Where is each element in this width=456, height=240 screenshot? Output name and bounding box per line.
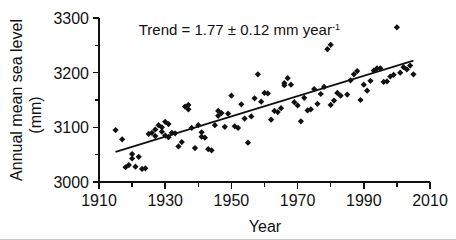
figure-container: 3000310032003300 19101930195019701990201… bbox=[0, 0, 456, 240]
y-tick-label: 3300 bbox=[53, 10, 89, 27]
data-point bbox=[136, 154, 142, 160]
x-tick-label: 1950 bbox=[214, 192, 250, 209]
data-point bbox=[258, 99, 264, 105]
scatter-points bbox=[112, 24, 416, 172]
data-point bbox=[132, 164, 138, 170]
data-point bbox=[179, 139, 185, 145]
data-point bbox=[318, 91, 324, 97]
data-point bbox=[331, 97, 337, 103]
trend-annotation: Trend = 1.77 ± 0.12 mm year-1 bbox=[139, 21, 340, 38]
trend-annotation-exponent: -1 bbox=[332, 22, 340, 32]
y-axis-tick-labels: 3000310032003300 bbox=[53, 10, 89, 191]
data-point bbox=[268, 117, 274, 123]
data-point bbox=[394, 24, 400, 30]
data-point bbox=[285, 75, 291, 81]
x-axis-ticks bbox=[99, 182, 430, 189]
data-point bbox=[255, 71, 261, 77]
y-axis-ticks bbox=[93, 18, 99, 182]
x-tick-label: 1970 bbox=[280, 192, 316, 209]
data-point bbox=[344, 91, 350, 97]
x-axis: 191019301950197019902010 bbox=[81, 182, 448, 209]
data-point bbox=[228, 93, 234, 99]
x-tick-label: 1930 bbox=[147, 192, 183, 209]
data-point bbox=[251, 95, 257, 101]
y-axis: 3000310032003300 bbox=[53, 10, 99, 191]
data-point bbox=[314, 101, 320, 107]
data-point bbox=[129, 151, 135, 157]
trend-line bbox=[116, 61, 414, 152]
data-point bbox=[119, 136, 125, 142]
data-point bbox=[248, 113, 254, 119]
y-axis-title-line2: (mm) bbox=[27, 96, 44, 133]
x-axis-tick-labels: 191019301950197019902010 bbox=[81, 192, 448, 209]
data-point bbox=[367, 78, 373, 84]
data-point bbox=[222, 124, 228, 130]
y-tick-label: 3200 bbox=[53, 65, 89, 82]
x-tick-label: 1910 bbox=[81, 192, 117, 209]
data-point bbox=[328, 42, 334, 48]
y-tick-label: 3000 bbox=[53, 174, 89, 191]
data-point bbox=[324, 46, 330, 52]
data-point bbox=[225, 111, 231, 117]
data-point bbox=[361, 82, 367, 88]
y-axis-title-line1: Annual mean sea level bbox=[8, 19, 25, 181]
data-point bbox=[112, 127, 118, 133]
data-point bbox=[175, 143, 181, 149]
y-tick-label: 3100 bbox=[53, 119, 89, 136]
data-point bbox=[328, 102, 334, 108]
data-point bbox=[245, 140, 251, 146]
data-point bbox=[410, 71, 416, 77]
data-point bbox=[238, 101, 244, 107]
data-point bbox=[192, 145, 198, 151]
data-point bbox=[298, 118, 304, 124]
data-point bbox=[357, 97, 363, 103]
data-point bbox=[364, 88, 370, 94]
x-tick-label: 1990 bbox=[346, 192, 382, 209]
data-point bbox=[397, 70, 403, 76]
data-point bbox=[288, 82, 294, 88]
sea-level-scatter-chart: 3000310032003300 19101930195019701990201… bbox=[0, 0, 456, 240]
data-point bbox=[242, 115, 248, 121]
x-axis-title: Year bbox=[249, 218, 282, 235]
trend-annotation-text: Trend = 1.77 ± 0.12 mm year bbox=[139, 21, 332, 38]
x-tick-label: 2010 bbox=[412, 192, 448, 209]
